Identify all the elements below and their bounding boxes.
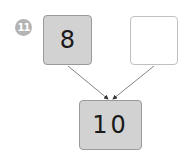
arrow-right-icon <box>113 66 154 99</box>
arrow-left-icon <box>68 66 108 99</box>
arrows-diagram <box>0 0 184 164</box>
